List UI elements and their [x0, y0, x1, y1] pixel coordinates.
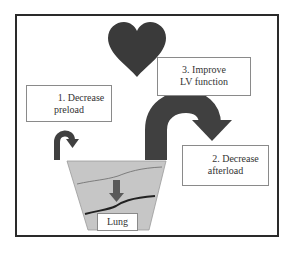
decrease-afterload-label: 2. Decrease afterload: [182, 145, 269, 186]
diagram-canvas: [0, 0, 295, 255]
decrease-preload-label: 1. Decrease preload: [26, 85, 112, 122]
lung-text: Lung: [98, 216, 137, 228]
preload-line1: 1. Decrease: [27, 92, 111, 104]
improve-lv-function-label: 3. Improve LV function: [157, 57, 251, 96]
afterload-line2: afterload: [183, 165, 268, 177]
afterload-line1: 2. Decrease: [183, 153, 268, 165]
lung-label: Lung: [97, 213, 138, 231]
preload-curved-arrow-icon: [57, 133, 79, 160]
lv-line1: 3. Improve: [158, 64, 250, 76]
lv-line2: LV function: [158, 76, 250, 88]
preload-line2: preload: [27, 104, 111, 116]
